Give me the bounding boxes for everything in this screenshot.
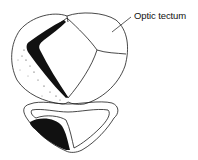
brain-cross-section-diagram	[0, 0, 198, 160]
shaded-cell-layer-upper	[27, 20, 68, 98]
tectum-outline	[12, 13, 128, 104]
shaded-cell-layer-lower	[30, 119, 70, 150]
optic-tectum-label: Optic tectum	[134, 10, 186, 21]
optic-tectum	[12, 13, 128, 104]
tectal-divider	[97, 50, 126, 54]
midline-notch	[67, 16, 68, 22]
